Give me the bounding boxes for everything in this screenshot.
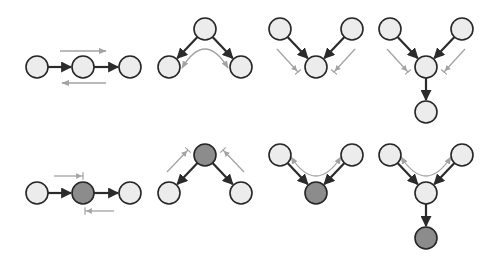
directed-edge-arrow-icon <box>213 37 233 58</box>
edge-group-collider-observed <box>288 163 345 184</box>
unobserved-node <box>72 56 94 78</box>
blocked-flow-arrow-icon <box>167 150 188 172</box>
directed-edge-arrow-icon <box>177 163 197 184</box>
unobserved-node <box>379 144 401 166</box>
information-flow-layer <box>54 49 465 211</box>
directed-edge-arrow-icon <box>177 37 197 58</box>
unobserved-node <box>158 182 180 204</box>
node-group-collider-descendant-unobserved <box>379 18 473 123</box>
unobserved-node <box>305 56 327 78</box>
directed-edge-arrow-icon <box>288 37 308 58</box>
unobserved-node <box>415 182 437 204</box>
flow-double-arrow-icon <box>182 49 228 68</box>
node-group-chain-observed <box>26 182 141 204</box>
blocked-flow-arrow-icon <box>444 49 465 72</box>
unobserved-node <box>415 56 437 78</box>
blocked-flow-arrow-icon <box>277 49 298 72</box>
node-group-fork-unobserved <box>158 18 252 78</box>
unobserved-node <box>379 18 401 40</box>
node-group-fork-observed <box>158 144 252 204</box>
unobserved-node <box>26 182 48 204</box>
unobserved-node <box>451 144 473 166</box>
unobserved-node <box>341 144 363 166</box>
blocked-flow-arrow-icon <box>334 49 355 72</box>
node-group-collider-unobserved <box>269 18 363 78</box>
node-group-collider-observed <box>269 144 363 204</box>
observed-node <box>194 144 216 166</box>
directed-edge-arrow-icon <box>434 37 454 58</box>
unobserved-node <box>230 56 252 78</box>
directed-edge-arrow-icon <box>398 37 418 58</box>
directed-edge-arrow-icon <box>324 37 344 58</box>
flow-group-fork-unobserved <box>182 49 228 68</box>
unobserved-node <box>341 18 363 40</box>
unobserved-node <box>230 182 252 204</box>
unobserved-node <box>415 101 437 123</box>
blocked-flow-arrow-icon <box>223 150 244 172</box>
unobserved-node <box>119 182 141 204</box>
node-layer <box>26 18 473 249</box>
d-separation-diagram-canvas <box>0 0 497 261</box>
unobserved-node <box>119 56 141 78</box>
observed-node <box>305 182 327 204</box>
directed-edge-arrow-icon <box>213 163 233 184</box>
observed-node <box>72 182 94 204</box>
unobserved-node <box>158 56 180 78</box>
unobserved-node <box>194 18 216 40</box>
observed-node <box>415 227 437 249</box>
unobserved-node <box>269 18 291 40</box>
blocked-flow-arrow-icon <box>387 49 408 72</box>
unobserved-node <box>451 18 473 40</box>
node-group-collider-descendant-observed <box>379 144 473 249</box>
node-group-chain-unobserved <box>26 56 141 78</box>
unobserved-node <box>26 56 48 78</box>
unobserved-node <box>269 144 291 166</box>
edge-group-collider-unobserved <box>288 37 345 58</box>
